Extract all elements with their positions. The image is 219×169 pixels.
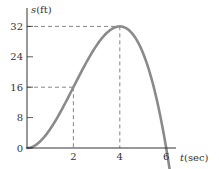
y-tick-label: 0 [17,143,23,154]
y-tick-label: 32 [10,21,23,32]
y-ticks: 08162432 [10,21,33,154]
y-tick-label: 24 [10,51,23,62]
x-axis-label: t(sec) [180,152,209,163]
position-time-graph: 08162432 246 s(ft) t(sec) [0,0,219,169]
x-tick-label: 6 [163,151,169,162]
y-tick-label: 8 [17,112,23,123]
y-axis-label: s(ft) [31,4,52,15]
y-tick-label: 16 [10,82,23,93]
x-tick-label: 2 [70,151,76,162]
x-tick-label: 4 [117,151,123,162]
x-ticks: 246 [70,151,169,162]
